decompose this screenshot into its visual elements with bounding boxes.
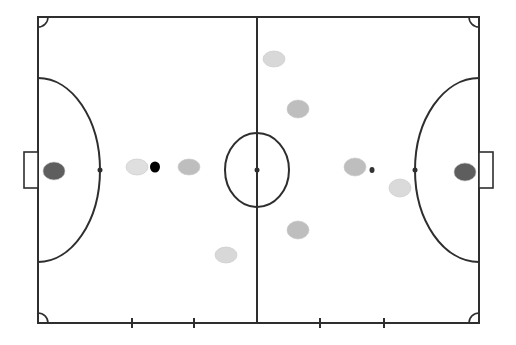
corner-arc-top-right (469, 17, 479, 27)
futsal-court-diagram (0, 0, 516, 345)
player-marker-right-player-5 (389, 179, 411, 197)
players-layer (43, 51, 476, 263)
court-lines (24, 17, 493, 328)
ball-small-marker (370, 167, 375, 173)
player-marker-left-player-3 (215, 247, 237, 263)
player-marker-left-goalkeeper (43, 162, 65, 180)
player-marker-left-player-2 (178, 159, 200, 175)
goal-right (479, 152, 493, 188)
player-marker-left-player-1 (126, 159, 148, 175)
player-marker-right-player-2 (287, 100, 309, 118)
penalty-spot-left (98, 168, 103, 173)
corner-arc-bottom-right (469, 313, 479, 323)
corner-arc-bottom-left (38, 313, 48, 323)
corner-arc-top-left (38, 17, 48, 27)
player-marker-right-player-3 (287, 221, 309, 239)
player-marker-right-player-1 (263, 51, 285, 67)
player-marker-right-goalkeeper (454, 163, 476, 181)
ball-large-marker (150, 162, 160, 173)
penalty-spot-right (413, 168, 418, 173)
goal-left (24, 152, 38, 188)
court-svg (0, 0, 516, 345)
player-marker-right-player-4 (344, 158, 366, 176)
center-spot (255, 168, 260, 173)
